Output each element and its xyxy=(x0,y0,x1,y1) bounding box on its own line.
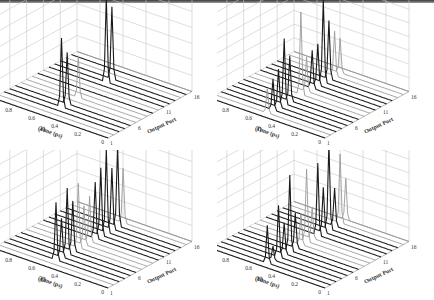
port-tick-label: 16 xyxy=(194,244,200,250)
port-axis-label: Output Port xyxy=(363,116,394,135)
panel-label: (f) xyxy=(255,125,262,133)
trace-port-7 xyxy=(244,79,359,119)
time-tick-label: 0.6 xyxy=(245,265,252,271)
trace-port-8 xyxy=(32,76,147,116)
port-axis-label: Output Port xyxy=(146,116,177,135)
chart-panel-h: 00.20.40.60.811.21.400.20.40.60.81161116… xyxy=(217,150,434,300)
time-tick-label: 0.8 xyxy=(222,257,229,263)
time-tick-label: 0 xyxy=(318,289,321,295)
waterfall-plot-h: 00.20.40.60.811.21.400.20.40.60.81161116… xyxy=(217,150,434,300)
port-tick-label: 11 xyxy=(166,259,172,265)
trace-port-3 xyxy=(221,242,336,282)
panel-label: (g) xyxy=(38,275,46,283)
panel-label: (h) xyxy=(255,275,263,283)
time-tick-label: 0.6 xyxy=(245,115,252,121)
trace-port-16 xyxy=(77,52,192,92)
port-tick-label: 6 xyxy=(138,275,141,281)
time-tick-label: 0 xyxy=(101,289,104,295)
port-tick-label: 6 xyxy=(138,125,141,131)
time-tick-label: 0.2 xyxy=(74,131,81,137)
port-tick-label: 6 xyxy=(355,275,358,281)
trace-port-12 xyxy=(272,0,387,104)
time-tick-label: 0 xyxy=(101,139,104,145)
port-tick-label: 1 xyxy=(110,140,113,146)
port-tick-label: 1 xyxy=(327,290,330,296)
port-tick-label: 16 xyxy=(194,94,200,100)
time-tick-label: 0.6 xyxy=(28,115,35,121)
waterfall-plot-g: 012345600.20.40.60.81161116Output Power … xyxy=(0,150,217,300)
chart-panel-e: 012345600.20.40.60.81161116Output Power … xyxy=(0,0,217,150)
waterfall-plot-e: 012345600.20.40.60.81161116Output Power … xyxy=(0,0,217,150)
time-tick-label: 0.4 xyxy=(51,123,58,129)
time-tick-label: 0.4 xyxy=(51,273,58,279)
port-tick-label: 16 xyxy=(411,94,417,100)
port-axis-label: Output Port xyxy=(363,266,394,285)
waterfall-plot-f: 00.20.40.60.811.21.400.20.40.60.81161116… xyxy=(217,0,434,150)
port-tick-label: 11 xyxy=(383,109,389,115)
trace-port-14 xyxy=(66,58,181,98)
port-tick-label: 11 xyxy=(166,109,172,115)
time-tick-label: 0 xyxy=(318,139,321,145)
time-tick-label: 0.4 xyxy=(268,123,275,129)
port-tick-label: 1 xyxy=(327,140,330,146)
time-tick-label: 0.2 xyxy=(291,131,298,137)
time-tick-label: 0.8 xyxy=(222,107,229,113)
chart-panel-f: 00.20.40.60.811.21.400.20.40.60.81161116… xyxy=(217,0,434,150)
port-tick-label: 6 xyxy=(355,125,358,131)
chart-panel-g: 012345600.20.40.60.81161116Output Power … xyxy=(0,150,217,300)
port-axis-label: Output Port xyxy=(146,266,177,285)
port-tick-label: 11 xyxy=(383,259,389,265)
time-tick-label: 0.8 xyxy=(5,257,12,263)
trace-port-3 xyxy=(4,92,119,132)
panel-label: (e) xyxy=(38,125,45,133)
time-tick-label: 0.2 xyxy=(74,281,81,287)
time-tick-label: 0.8 xyxy=(5,107,12,113)
time-tick-label: 0.2 xyxy=(291,281,298,287)
trace-port-6 xyxy=(21,83,136,123)
port-tick-label: 16 xyxy=(411,244,417,250)
port-tick-label: 1 xyxy=(110,290,113,296)
time-tick-label: 0.6 xyxy=(28,265,35,271)
trace-port-9 xyxy=(38,73,153,113)
time-tick-label: 0.4 xyxy=(268,273,275,279)
